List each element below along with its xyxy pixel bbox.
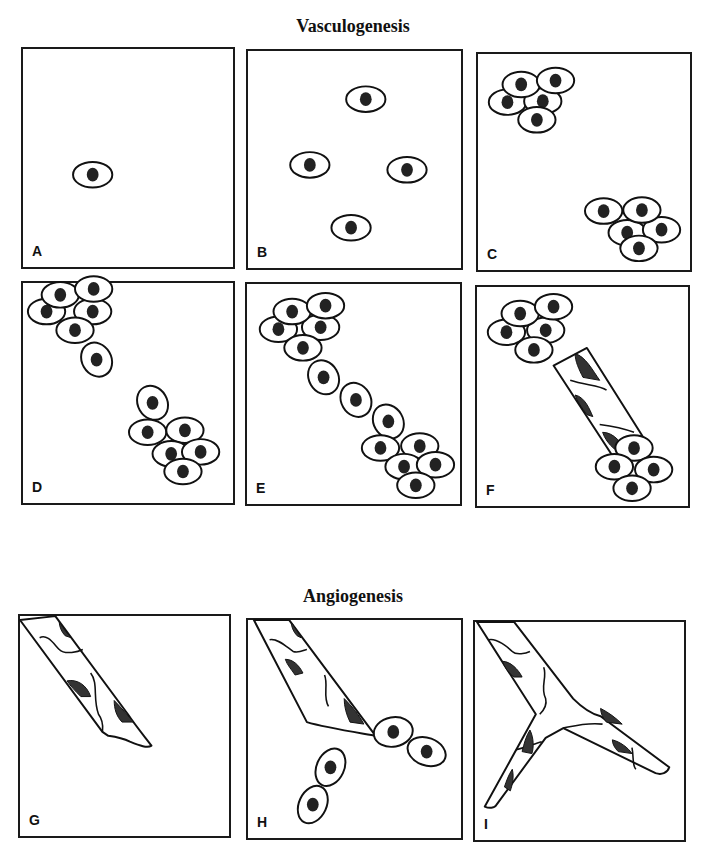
panel-i: I: [473, 620, 686, 842]
panel-c: C: [476, 52, 692, 272]
panel-label: E: [256, 480, 265, 496]
panel-e-drawing: [247, 284, 460, 504]
cell-icon: [290, 152, 329, 178]
panel-d-drawing: [23, 283, 233, 503]
vasculogenesis-title: Vasculogenesis: [253, 16, 453, 37]
panel-h-drawing: [248, 620, 461, 838]
vessel-icon: [477, 622, 669, 808]
panel-g: G: [18, 614, 231, 838]
panel-i-drawing: [475, 622, 684, 840]
panel-f-drawing: [477, 287, 688, 506]
panel-c-drawing: [478, 54, 690, 270]
panel-d: D: [21, 281, 235, 505]
panel-a-drawing: [23, 49, 233, 267]
panel-label: B: [257, 244, 267, 260]
cell-icon: [346, 86, 385, 112]
vessel-icon: [20, 616, 151, 747]
panel-h: H: [246, 618, 463, 840]
panel-a: A: [21, 47, 235, 269]
panel-label: D: [32, 479, 42, 495]
panel-b: B: [246, 49, 463, 270]
panel-e: E: [245, 282, 462, 506]
angiogenesis-title: Angiogenesis: [253, 586, 453, 607]
panel-label: H: [257, 814, 267, 830]
panel-label: C: [487, 246, 497, 262]
vessel-icon: [254, 620, 376, 736]
panel-label: A: [32, 243, 42, 259]
panel-label: I: [484, 816, 488, 832]
cell-icon: [387, 157, 426, 183]
panel-label: G: [29, 812, 40, 828]
panel-g-drawing: [20, 616, 229, 836]
panel-label: F: [486, 482, 495, 498]
cell-icon: [73, 162, 112, 188]
cell-icon: [331, 215, 370, 241]
panel-f: F: [475, 285, 690, 508]
panel-b-drawing: [248, 51, 461, 268]
